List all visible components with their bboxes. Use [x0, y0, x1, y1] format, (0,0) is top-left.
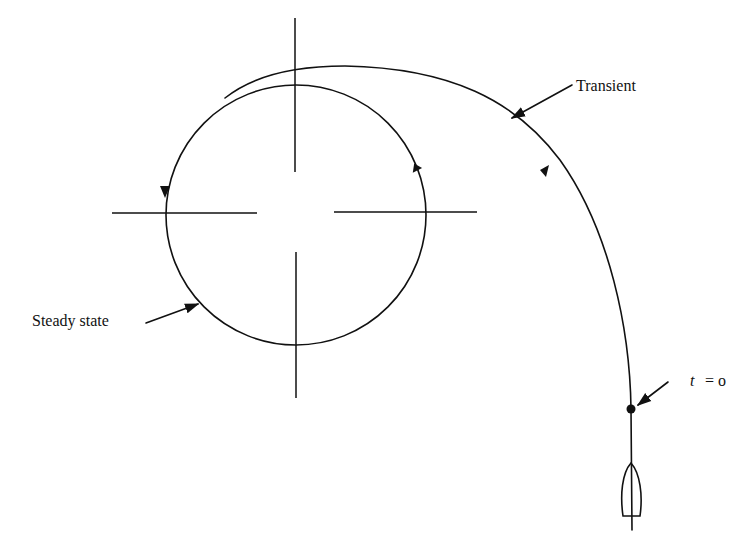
t-variable-label: t [690, 372, 694, 390]
transient-path [225, 66, 631, 409]
steady-state-pointer-arrow [146, 304, 198, 323]
diagram-svg [0, 0, 755, 552]
transient-direction-arrow [540, 165, 549, 177]
turning-circle-diagram: Transient Steady state t = o [0, 0, 755, 552]
t-equals-zero-label: = o [705, 372, 726, 390]
ship-heading-line [631, 409, 632, 530]
transient-pointer-arrow [512, 85, 572, 118]
start-pointer-arrow [638, 382, 668, 405]
steady-state-label: Steady state [32, 312, 109, 330]
circle-direction-arrow-right [411, 162, 422, 173]
transient-label: Transient [576, 77, 636, 95]
